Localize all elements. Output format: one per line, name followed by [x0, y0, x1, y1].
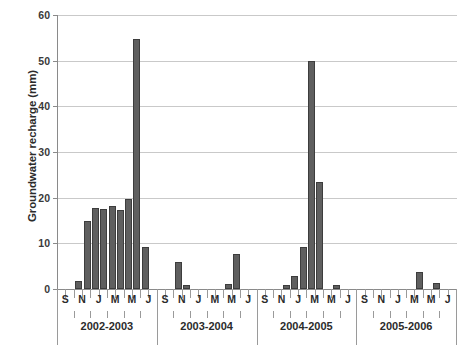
bar [125, 199, 132, 289]
x-axis-secondary-tick [439, 311, 440, 318]
x-axis-secondary-tick [107, 311, 108, 318]
bar [92, 208, 99, 289]
y-axis-tick-label: 60 [10, 9, 50, 21]
x-axis-month-label: S [162, 293, 169, 305]
y-axis-tick-label: 40 [10, 100, 50, 112]
x-axis-secondary-tick [173, 311, 174, 318]
x-axis-secondary-tick [373, 311, 374, 318]
x-axis-month-label: M [327, 293, 336, 305]
x-axis-secondary-tick [140, 311, 141, 318]
x-axis-secondary-tick [223, 311, 224, 318]
x-axis-month-label: J [345, 293, 351, 305]
y-axis-tick-label: 0 [10, 283, 50, 295]
bar [100, 209, 107, 289]
x-axis-month-label: M [111, 293, 120, 305]
x-axis-month-label: M [427, 293, 436, 305]
bar [117, 210, 124, 289]
gridline [58, 152, 457, 153]
x-axis-secondary-tick [423, 311, 424, 318]
x-axis-month-label: N [377, 293, 385, 305]
bar [175, 262, 182, 289]
x-axis-month-label: M [410, 293, 419, 305]
bar [233, 254, 240, 289]
x-axis-secondary-tick [390, 311, 391, 318]
x-axis-month-label: M [227, 293, 236, 305]
x-axis-month-label: S [261, 293, 268, 305]
gridline [58, 15, 457, 16]
x-axis-secondary-tick [90, 311, 91, 318]
x-axis-month-label: J [146, 293, 152, 305]
x-axis-month-label: J [395, 293, 401, 305]
plot-area [57, 15, 456, 289]
chart-figure: Groundwater recharge (mm) 0102030405060 … [0, 0, 466, 356]
x-axis-secondary-tick [207, 311, 208, 318]
x-axis-month-label: N [178, 293, 186, 305]
bar [316, 182, 323, 289]
gridline [58, 106, 457, 107]
x-axis-secondary-tick [323, 311, 324, 318]
x-axis-month-label: N [278, 293, 286, 305]
x-axis-secondary-tick [240, 311, 241, 318]
y-axis-tick-label: 20 [10, 192, 50, 204]
year-group-labels: 2002-20032003-20042004-20052005-2006 [57, 320, 456, 342]
x-axis-secondary-tick [273, 311, 274, 318]
x-axis-month-label: N [78, 293, 86, 305]
bar [75, 281, 82, 289]
bar [142, 247, 149, 289]
x-axis-secondary-tick [306, 311, 307, 318]
gridline [58, 198, 457, 199]
bar [416, 272, 423, 289]
y-axis-tick-label: 50 [10, 55, 50, 67]
y-axis-tick-label: 30 [10, 146, 50, 158]
x-axis-secondary-tick [406, 311, 407, 318]
year-group-separator [456, 289, 457, 345]
x-axis-month-label: M [310, 293, 319, 305]
bar [308, 61, 315, 289]
year-group-label: 2002-2003 [81, 320, 134, 332]
x-axis-secondary-tick [74, 311, 75, 318]
x-axis-secondary-tick [124, 311, 125, 318]
year-group-label: 2003-2004 [180, 320, 233, 332]
x-axis-month-label: J [445, 293, 451, 305]
bar [300, 247, 307, 289]
x-axis-secondary-tick [290, 311, 291, 318]
gridline [58, 61, 457, 62]
x-axis-secondary-tick [340, 311, 341, 318]
x-axis-month-label: M [211, 293, 220, 305]
x-axis-secondary-tick [190, 311, 191, 318]
x-axis-month-label: S [62, 293, 69, 305]
y-axis-tick-label: 10 [10, 237, 50, 249]
year-group-label: 2005-2006 [380, 320, 433, 332]
x-axis-month-label: J [96, 293, 102, 305]
bar [133, 39, 140, 289]
x-axis-month-label: J [245, 293, 251, 305]
bar [109, 206, 116, 289]
year-group-label: 2004-2005 [280, 320, 333, 332]
x-axis-month-label: J [195, 293, 201, 305]
x-axis-month-label: S [361, 293, 368, 305]
x-axis-month-label: M [127, 293, 136, 305]
x-axis-month-label: J [295, 293, 301, 305]
bar [291, 276, 298, 289]
bar [84, 221, 91, 290]
